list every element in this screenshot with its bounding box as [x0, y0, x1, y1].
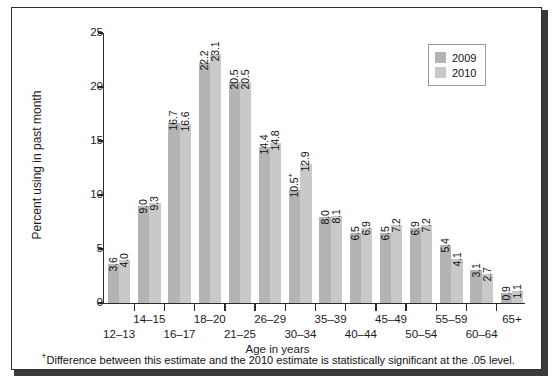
- bar-value-label-2009-65+: 0.9: [500, 286, 511, 300]
- bar-2009-18–20: [199, 63, 210, 303]
- y-tick-label-text: 20: [75, 81, 103, 93]
- y-tick-label-20: 20: [60, 81, 103, 93]
- bar-2009-16–17: [168, 123, 179, 303]
- footnote-text: Difference between this estimate and the…: [47, 354, 515, 366]
- x-axis-label-30–34: 30–34: [270, 328, 330, 340]
- bar-value-label-2010-40–44: 6.9: [360, 222, 371, 236]
- chart-figure: Percent using in past month 05101520253.…: [0, 0, 555, 379]
- bar-value-label-2010-50–54: 7.2: [421, 218, 432, 232]
- x-tick-8: [345, 304, 346, 311]
- x-tick-5: [254, 304, 255, 311]
- y-tick-label-15: 15: [60, 135, 103, 147]
- legend-label-2009: 2009: [452, 52, 476, 64]
- y-tick-label-25: 25: [60, 27, 103, 39]
- legend-label-2010: 2010: [452, 67, 476, 79]
- y-tick-label-text: 25: [75, 27, 103, 39]
- bar-value-label-2010-12–13: 4.0: [119, 253, 130, 267]
- y-tick-label-10: 10: [60, 189, 103, 201]
- bar-2009-30–34: [289, 190, 300, 303]
- y-tick-label-text: 5: [75, 243, 103, 255]
- bar-value-label-2010-35–39: 8.1: [330, 209, 341, 223]
- bar-2010-40–44: [361, 228, 372, 303]
- y-tick-label-text: 0: [75, 297, 103, 309]
- x-tick-11: [436, 304, 437, 311]
- legend-swatch-2010: [435, 67, 446, 78]
- bar-2009-35–39: [319, 217, 330, 303]
- legend-item-2009: 2009: [435, 50, 476, 65]
- x-tick-2: [164, 304, 165, 311]
- bar-value-label-2010-30–34: 12.9: [300, 151, 311, 171]
- y-tick-label-5: 5: [60, 243, 103, 255]
- bar-value-label-2010-14–15: 9.3: [149, 196, 160, 210]
- bar-value-label-2010-16–17: 16.6: [179, 111, 190, 131]
- x-tick-13: [496, 304, 497, 311]
- y-tick-label-text: 10: [75, 189, 103, 201]
- bar-2010-21–25: [240, 82, 251, 303]
- bar-2009-14–15: [138, 206, 149, 303]
- bar-2010-50–54: [421, 225, 432, 303]
- x-tick-4: [224, 304, 225, 311]
- x-axis-label-21–25: 21–25: [210, 328, 270, 340]
- x-axis-label-65+: 65+: [482, 313, 542, 325]
- legend-swatch-2009: [435, 52, 446, 63]
- x-axis-label-14–15: 14–15: [119, 313, 179, 325]
- x-axis-label-40–44: 40–44: [331, 328, 391, 340]
- x-tick-6: [285, 304, 286, 311]
- x-tick-7: [315, 304, 316, 311]
- bar-2009-40–44: [350, 233, 361, 303]
- x-axis-label-55–59: 55–59: [421, 313, 481, 325]
- legend-item-2010: 2010: [435, 65, 476, 80]
- x-axis-label-12–13: 12–13: [89, 328, 149, 340]
- bar-value-label-2009-12–13: 3.6: [108, 257, 119, 271]
- bar-2009-45–49: [380, 233, 391, 303]
- bar-value-label-2009-26–29: 14.4: [259, 135, 270, 155]
- x-tick-9: [375, 304, 376, 311]
- bar-value-label-2010-55–59: 4.1: [451, 252, 462, 266]
- bar-value-label-2010-65+: 1.1: [511, 284, 522, 298]
- bar-value-label-2009-60–64: 3.1: [470, 263, 481, 277]
- x-axis-label-60–64: 60–64: [452, 328, 512, 340]
- bar-2009-21–25: [229, 82, 240, 303]
- bar-value-label-2009-16–17: 16.7: [168, 110, 179, 130]
- x-axis-label-18–20: 18–20: [180, 313, 240, 325]
- y-tick-label-0: 0: [60, 297, 103, 309]
- x-axis-label-50–54: 50–54: [391, 328, 451, 340]
- bar-2009-26–29: [259, 147, 270, 303]
- y-axis-title: Percent using in past month: [30, 65, 44, 265]
- x-tick-10: [405, 304, 406, 311]
- bar-2010-16–17: [180, 124, 191, 303]
- bar-2010-30–34: [300, 164, 311, 303]
- bar-value-label-2009-35–39: 8.0: [319, 210, 330, 224]
- bar-2010-35–39: [331, 216, 342, 303]
- y-tick-label-text: 15: [75, 135, 103, 147]
- x-tick-3: [194, 304, 195, 311]
- bar-value-label-2010-26–29: 14.8: [270, 131, 281, 151]
- x-tick-1: [134, 304, 135, 311]
- x-axis-label-45–49: 45–49: [361, 313, 421, 325]
- bar-value-label-2010-18–20: 23.1: [209, 41, 220, 61]
- bar-value-label-2010-60–64: 2.7: [481, 267, 492, 281]
- legend: 2009 2010: [428, 44, 486, 86]
- bar-value-label-2009-45–49: 6.5: [379, 226, 390, 240]
- bar-value-label-2009-18–20: 22.2: [198, 51, 209, 71]
- footnote: +Difference between this estimate and th…: [16, 354, 540, 367]
- bar-2009-50–54: [410, 228, 421, 303]
- bar-value-label-2009-30–34: 10.5+: [289, 172, 300, 197]
- x-axis-label-26–29: 26–29: [240, 313, 300, 325]
- x-axis-label-35–39: 35–39: [301, 313, 361, 325]
- bar-2010-18–20: [210, 54, 221, 303]
- bar-value-label-2009-40–44: 6.5: [349, 226, 360, 240]
- bar-value-label-2010-45–49: 7.2: [391, 218, 402, 232]
- bar-2010-45–49: [391, 225, 402, 303]
- bar-2010-14–15: [149, 203, 160, 303]
- x-tick-12: [466, 304, 467, 311]
- x-axis-label-16–17: 16–17: [150, 328, 210, 340]
- bar-value-label-2009-55–59: 5.4: [440, 238, 451, 252]
- bar-value-label-2010-21–25: 20.5: [240, 69, 251, 89]
- y-axis-line: [103, 33, 104, 304]
- bar-2010-26–29: [270, 143, 281, 303]
- bar-value-label-2009-21–25: 20.5: [228, 69, 239, 89]
